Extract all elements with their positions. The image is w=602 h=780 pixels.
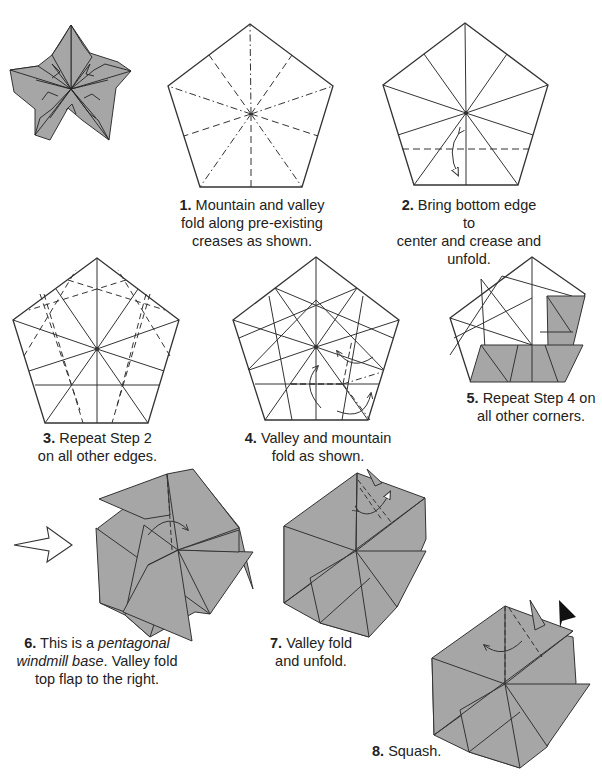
step6-caption: 6. This is a pentagonal windmill base. V…	[12, 634, 182, 688]
step6-windmill-base	[96, 469, 253, 641]
step5-caption: 5. Repeat Step 4 on all other corners.	[466, 389, 596, 425]
step5-number: 5.	[467, 390, 479, 406]
squash-arrowhead-icon	[559, 600, 576, 628]
hollow-right-arrow-icon	[14, 527, 72, 562]
step1-number: 1.	[179, 197, 191, 213]
step2-caption: 2. Bring bottom edge to center and creas…	[394, 196, 544, 268]
step4-crease-pattern	[233, 257, 399, 420]
step7-caption: 7. Valley fold and unfold.	[266, 634, 356, 670]
step4-number: 4.	[245, 430, 257, 446]
step7-folded-flap	[284, 469, 426, 637]
step8-squash	[432, 600, 590, 768]
step1-crease-pattern	[168, 24, 333, 187]
step4-caption: 4. Valley and mountain fold as shown.	[243, 429, 393, 465]
step1-caption: 1. Mountain and valley fold along pre-ex…	[172, 196, 332, 250]
step3-number: 3.	[43, 430, 55, 446]
step2-number: 2.	[402, 197, 414, 213]
step6-number: 6.	[24, 635, 36, 651]
finished-star-model	[10, 25, 131, 140]
step3-caption: 3. Repeat Step 2 on all other edges.	[25, 429, 170, 465]
step2-crease-pattern	[383, 23, 548, 185]
step3-crease-pattern	[13, 258, 179, 423]
step5-partially-folded	[450, 257, 585, 382]
step8-caption: 8. Squash.	[372, 742, 442, 760]
step7-number: 7.	[270, 635, 282, 651]
step8-number: 8.	[372, 743, 384, 759]
